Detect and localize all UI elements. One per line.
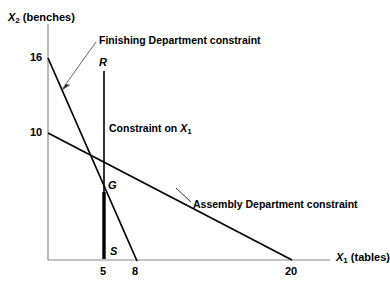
x-axis-title-sub: 1 — [343, 256, 347, 265]
linear-programming-chart: X2 (benches) X1 (tables) 16 10 5 8 20 Fi… — [0, 0, 390, 287]
point-label-s: S — [110, 246, 117, 257]
x-tick-label-8: 8 — [132, 266, 138, 277]
finishing-leader-arrowhead — [61, 84, 70, 91]
finishing-leader-line — [63, 42, 96, 88]
finishing-constraint-label: Finishing Department constraint — [99, 35, 261, 46]
finishing-constraint-line — [48, 58, 137, 261]
assembly-constraint-line — [48, 133, 292, 260]
point-label-g: G — [108, 180, 117, 191]
y-axis-title-sub: 2 — [15, 16, 19, 25]
x1-constraint-label-sub: 1 — [187, 127, 191, 136]
y-axis-title-unit: (benches) — [23, 11, 75, 23]
x-tick-label-20: 20 — [285, 266, 297, 277]
x1-constraint-label-text: Constraint on — [109, 122, 180, 134]
y-tick-label-10: 10 — [30, 127, 42, 138]
x-axis-title: X1 (tables) — [336, 252, 390, 263]
x1-constraint-label: Constraint on X1 — [109, 123, 192, 134]
y-axis-title: X2 (benches) — [8, 12, 75, 23]
assembly-constraint-label: Assembly Department constraint — [193, 199, 358, 210]
x-tick-label-5: 5 — [100, 266, 106, 277]
y-tick-label-16: 16 — [30, 52, 42, 63]
point-label-r: R — [99, 57, 107, 68]
x-axis-title-unit: (tables) — [351, 251, 390, 263]
